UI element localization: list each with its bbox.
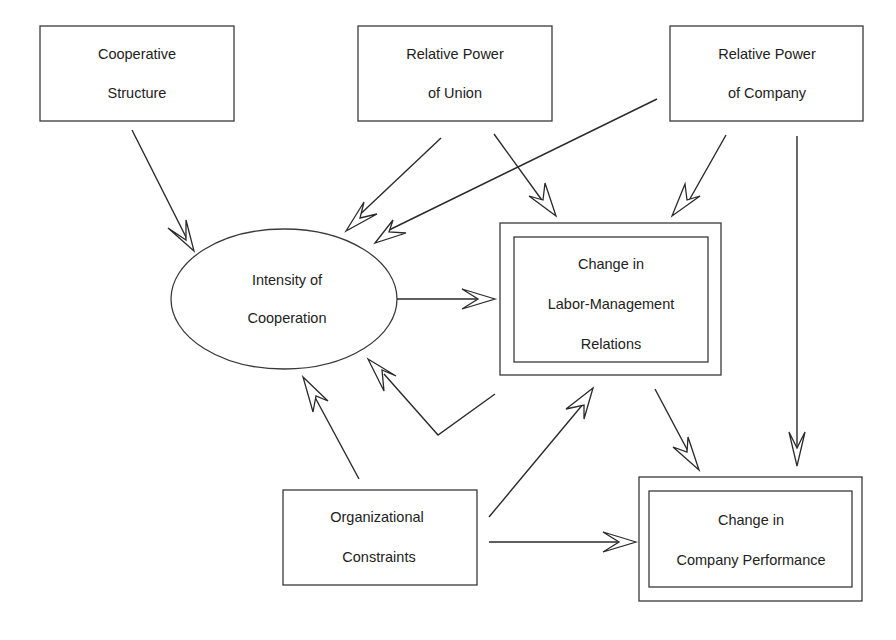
node-change-labor-management: Change in Labor-Management Relations bbox=[500, 223, 721, 375]
node-organizational-constraints: Organizational Constraints bbox=[283, 490, 477, 585]
arrowhead-icon bbox=[566, 388, 593, 419]
cooperative-structure-label-line1: Cooperative bbox=[98, 46, 176, 62]
edge-union-to-intensity bbox=[346, 138, 441, 231]
causal-diagram: Cooperative Structure Relative Power of … bbox=[0, 0, 896, 640]
company-performance-inner-box bbox=[649, 491, 852, 587]
arrowhead-icon bbox=[346, 202, 377, 231]
relative-power-company-label-line1: Relative Power bbox=[718, 46, 816, 62]
intensity-of-cooperation-ellipse bbox=[171, 229, 397, 369]
edge-intensity-to-labor-management bbox=[397, 289, 495, 309]
relative-power-union-box bbox=[358, 26, 552, 121]
relative-power-company-label-line2: of Company bbox=[728, 85, 807, 101]
arrowhead-icon bbox=[168, 220, 194, 251]
edge-company-to-labor-management bbox=[672, 135, 726, 216]
edge-labor-management-to-intensity bbox=[368, 359, 495, 435]
cooperative-structure-box bbox=[40, 26, 234, 121]
organizational-constraints-label-line1: Organizational bbox=[330, 509, 424, 525]
node-change-company-performance: Change in Company Performance bbox=[639, 477, 862, 601]
intensity-label-line1: Intensity of bbox=[252, 272, 323, 288]
labor-management-label-line2: Labor-Management bbox=[548, 296, 675, 312]
node-cooperative-structure: Cooperative Structure bbox=[40, 26, 234, 121]
arrowhead-icon bbox=[673, 437, 699, 470]
relative-power-union-label-line1: Relative Power bbox=[406, 46, 504, 62]
cooperative-structure-label-line2: Structure bbox=[108, 85, 167, 101]
node-relative-power-union: Relative Power of Union bbox=[358, 26, 552, 121]
labor-management-label-line3: Relations bbox=[581, 336, 641, 352]
company-performance-label-line1: Change in bbox=[718, 512, 784, 528]
arrowhead-icon bbox=[303, 377, 328, 412]
company-performance-label-line2: Company Performance bbox=[676, 552, 825, 568]
edge-company-to-company-performance bbox=[789, 136, 805, 466]
relative-power-company-box bbox=[670, 26, 863, 121]
node-intensity-of-cooperation: Intensity of Cooperation bbox=[171, 229, 397, 369]
edge-org-constraints-to-labor-management bbox=[489, 388, 593, 517]
labor-management-label-line1: Change in bbox=[578, 256, 644, 272]
node-relative-power-company: Relative Power of Company bbox=[670, 26, 863, 121]
edge-labor-management-to-company-performance bbox=[655, 389, 699, 470]
intensity-label-line2: Cooperation bbox=[248, 310, 327, 326]
edge-union-to-labor-management bbox=[494, 134, 556, 216]
relative-power-union-label-line2: of Union bbox=[428, 85, 482, 101]
edge-org-constraints-to-intensity bbox=[303, 377, 359, 479]
edge-cooperative-to-intensity bbox=[132, 130, 194, 251]
organizational-constraints-box bbox=[283, 490, 477, 585]
edge-org-constraints-to-company-performance bbox=[489, 532, 636, 552]
organizational-constraints-label-line2: Constraints bbox=[342, 549, 415, 565]
arrowhead-icon bbox=[368, 359, 396, 391]
